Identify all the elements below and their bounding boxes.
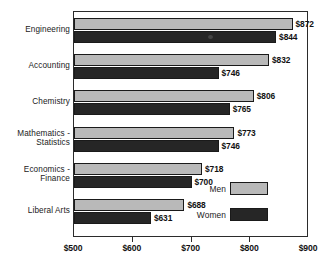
legend-swatch-men — [230, 182, 268, 195]
x-tick-label-700: $700 — [181, 243, 200, 253]
bar-women-2 — [74, 103, 230, 115]
legend-label-men: Men — [184, 184, 226, 194]
category-label-2: Chemistry — [0, 97, 70, 107]
x-tick-label-600: $600 — [122, 243, 141, 253]
x-tick-label-800: $800 — [240, 243, 259, 253]
bar-value-label-women-2: $765 — [233, 103, 251, 115]
legend-label-women: Women — [184, 210, 226, 220]
category-label-1: Accounting — [0, 61, 70, 71]
bar-men-1 — [74, 54, 269, 66]
bar-value-label-men-0: $872 — [296, 18, 314, 30]
category-label-3: Mathematics - Statistics — [0, 129, 70, 148]
bar-value-label-women-3: $746 — [222, 140, 240, 152]
plot-area: $872$844$832$746$806$765$773$746$718$700… — [73, 11, 308, 237]
category-label-0: Engineering — [0, 25, 70, 35]
category-axis-labels: EngineeringAccountingChemistryMathematic… — [0, 11, 70, 237]
bar-men-2 — [74, 90, 254, 102]
legend-item-women[interactable]: Women — [184, 208, 268, 221]
legend-item-men[interactable]: Men — [184, 182, 268, 195]
legend-swatch-women — [230, 208, 268, 221]
bar-value-label-women-1: $746 — [222, 67, 240, 79]
bar-men-5 — [74, 199, 184, 211]
bar-value-label-men-4: $718 — [205, 163, 223, 175]
x-tick-800 — [249, 237, 250, 242]
bar-value-label-men-2: $806 — [257, 90, 275, 102]
bar-women-0 — [74, 31, 276, 43]
bar-value-label-women-5: $631 — [154, 212, 172, 224]
category-label-4: Economics - Finance — [0, 165, 70, 184]
x-tick-600 — [132, 237, 133, 242]
bar-women-5 — [74, 212, 151, 224]
bar-women-1 — [74, 67, 219, 79]
x-tick-700 — [191, 237, 192, 242]
category-label-5: Liberal Arts — [0, 206, 70, 216]
bar-women-3 — [74, 140, 219, 152]
bar-chart: EngineeringAccountingChemistryMathematic… — [0, 0, 328, 267]
bar-men-4 — [74, 163, 202, 175]
x-tick-label-500: $500 — [64, 243, 83, 253]
chart-legend: MenWomen — [184, 182, 302, 230]
bar-value-label-women-0: $844 — [279, 31, 297, 43]
bar-value-label-men-3: $773 — [237, 127, 255, 139]
bar-men-3 — [74, 127, 234, 139]
x-tick-label-900: $900 — [299, 243, 318, 253]
bar-value-label-men-1: $832 — [272, 54, 290, 66]
bar-women-4 — [74, 176, 192, 188]
bar-men-0 — [74, 18, 293, 30]
